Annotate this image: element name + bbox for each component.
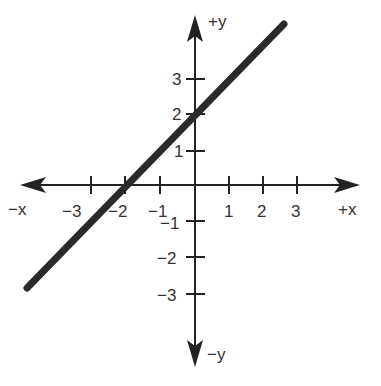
y-tick-label: −2 [157,249,176,268]
x-tick-label: 2 [257,202,266,221]
y-tick-label: 2 [172,105,181,124]
y-tick-label: 1 [174,142,183,161]
x-pos-label: +x [338,200,357,219]
coordinate-plane: −x +x +y −y −3 −2 −1 1 2 3 3 2 1 −1 −2 −… [0,0,381,386]
y-tick-label: 3 [172,70,181,89]
y-pos-label: +y [208,12,227,31]
x-neg-label: −x [8,200,27,219]
y-neg-label: −y [207,345,226,364]
x-tick-label: 1 [224,202,233,221]
y-tick-label: −3 [157,286,176,305]
x-tick-label: −3 [62,202,81,221]
x-tick-label: −2 [108,202,127,221]
x-tick-label: 3 [291,202,300,221]
line-series [27,24,284,288]
y-tick-label: −1 [160,214,179,233]
